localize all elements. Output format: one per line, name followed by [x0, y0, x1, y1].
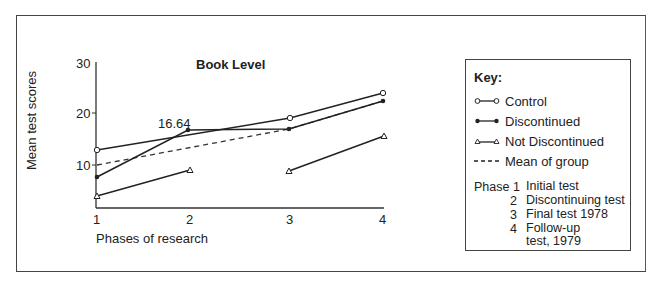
x-tick-2: 2: [186, 212, 193, 227]
phase-row-4: 4 Follow-up test, 1979: [474, 222, 606, 248]
series-not-discontinued-a: [97, 170, 190, 196]
y-axis-label: Mean test scores: [24, 71, 39, 170]
legend-title: Key:: [474, 70, 502, 85]
phase-description: Final test 1978: [526, 208, 616, 222]
phase-description: Initial test: [526, 180, 616, 194]
x-tick-3: 3: [286, 212, 293, 227]
legend-label: Not Discontinued: [505, 134, 604, 149]
legend-item-not-discontinued: Not Discontinued: [474, 133, 604, 149]
x-axis-label: Phases of research: [96, 231, 208, 246]
series-control: [97, 93, 383, 150]
legend-item-discontinued: Discontinued: [474, 113, 580, 129]
series-discontinued: [97, 101, 383, 177]
legend-label: Control: [505, 94, 547, 109]
data-label-16-64: 16.64: [158, 116, 191, 131]
series-not-discontinued-b: [289, 136, 384, 171]
legend-box: Key: Control Discontinued Not Discontinu…: [465, 59, 631, 251]
phase-number: Phase 1: [474, 180, 526, 194]
y-tick-10: 10: [76, 158, 90, 173]
open-triangle-line-icon: [474, 136, 500, 146]
phase-number: 3: [474, 208, 526, 222]
x-tick-4: 4: [379, 212, 386, 227]
chart-title: Book Level: [196, 57, 265, 72]
phase-number: 2: [474, 194, 526, 208]
phase-number: 4: [474, 222, 526, 248]
legend-item-mean-of-group: Mean of group: [474, 153, 589, 169]
phase-row-2: 2 Discontinuing test: [474, 194, 616, 208]
legend-label: Mean of group: [505, 154, 589, 169]
phase-description: Discontinuing test: [526, 194, 616, 208]
legend-item-control: Control: [474, 93, 547, 109]
open-circle-line-icon: [474, 96, 500, 106]
phase-description: Follow-up test, 1979: [526, 222, 606, 248]
filled-circle-line-icon: [474, 116, 500, 126]
y-tick-30: 30: [76, 56, 90, 71]
legend-label: Discontinued: [505, 114, 580, 129]
phase-row-1: Phase 1 Initial test: [474, 180, 616, 194]
dashed-line-icon: [474, 156, 500, 166]
x-tick-1: 1: [93, 212, 100, 227]
y-tick-20: 20: [76, 106, 90, 121]
phase-row-3: 3 Final test 1978: [474, 208, 616, 222]
